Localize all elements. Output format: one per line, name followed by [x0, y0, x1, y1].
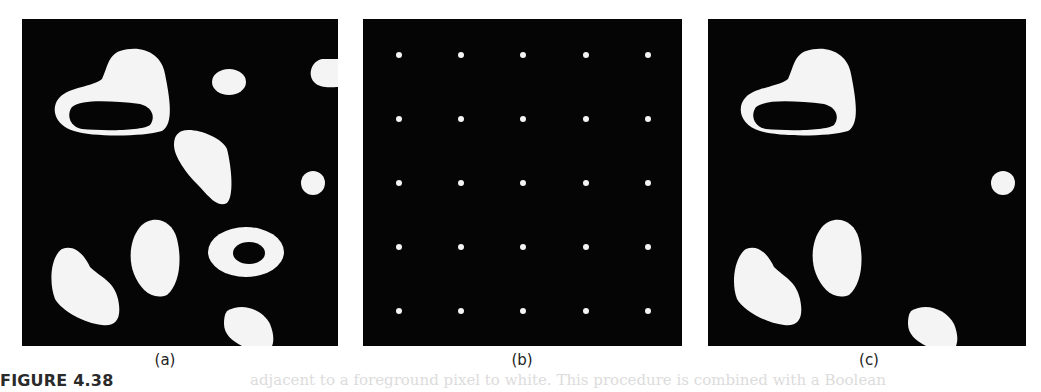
panel-a-original-binary-image: [22, 19, 338, 346]
panel-a-caption: (a): [155, 351, 176, 369]
bleed-through-text: adjacent to a foreground pixel to white.…: [250, 371, 886, 389]
panel-c-reconstructed-image: [708, 19, 1026, 346]
panel-b-marker-image: [363, 19, 682, 346]
panel-b-caption: (b): [511, 351, 532, 369]
blobs-image-a: [22, 19, 338, 346]
figure-label: FIGURE 4.38: [0, 371, 114, 390]
panel-c-caption: (c): [859, 351, 879, 369]
marker-grid-image: [363, 19, 682, 346]
blobs-image-c: [708, 19, 1026, 346]
